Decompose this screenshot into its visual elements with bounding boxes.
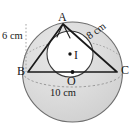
incenter-label-i: I (74, 49, 78, 61)
center-label-o: O (67, 75, 76, 87)
side-length-ab: 6 cm (2, 31, 23, 42)
geometry-figure: A B C O I 6 cm 8 cm 10 cm (0, 0, 136, 140)
side-length-bc: 10 cm (50, 88, 76, 99)
vertex-label-b: B (17, 65, 25, 77)
vertex-label-a: A (58, 11, 67, 23)
point-i-dot (68, 52, 71, 55)
vertex-label-c: C (121, 64, 129, 76)
